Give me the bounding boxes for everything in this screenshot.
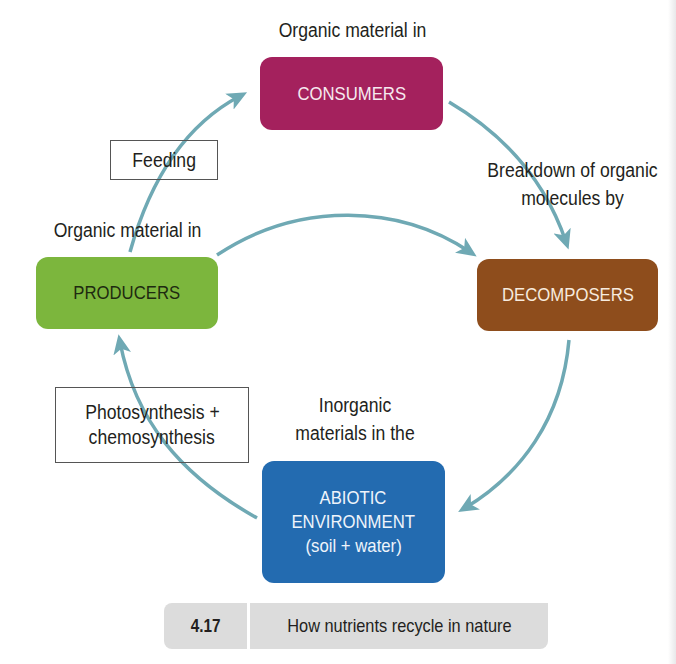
arrow-decomposers-to-abiotic (465, 340, 569, 508)
abiotic-caption-line2: materials in the (285, 421, 426, 446)
process-feeding: Feeding (110, 140, 218, 180)
node-abiotic-line1: ABIOTIC (320, 486, 387, 510)
figure-caption-text: How nutrients recycle in nature (250, 603, 548, 649)
producers-caption: Organic material in (33, 218, 222, 243)
figure-caption: 4.17 How nutrients recycle in nature (164, 603, 548, 649)
node-decomposers-label: DECOMPOSERS (502, 283, 634, 307)
abiotic-caption-line1: Inorganic (289, 393, 421, 418)
node-decomposers: DECOMPOSERS (477, 259, 658, 331)
decomposers-caption-line1: Breakdown of organic (469, 158, 676, 183)
arrow-producers-to-decomposers (217, 215, 470, 255)
node-abiotic-environment: ABIOTIC ENVIRONMENT (soil + water) (262, 461, 445, 583)
process-photosynthesis-line2: chemosynthesis (89, 425, 215, 450)
process-photosynthesis-line1: Photosynthesis + (85, 400, 220, 425)
process-feeding-label: Feeding (132, 148, 196, 173)
consumers-caption: Organic material in (254, 18, 452, 43)
figure-number: 4.17 (164, 603, 247, 649)
figure-caption-label: How nutrients recycle in nature (287, 615, 511, 637)
node-consumers: CONSUMERS (260, 57, 443, 130)
figure-number-text: 4.17 (191, 616, 221, 637)
decomposers-caption-line2: molecules by (491, 186, 654, 211)
node-abiotic-line2: ENVIRONMENT (292, 510, 416, 534)
node-consumers-label: CONSUMERS (297, 82, 406, 106)
process-photosynthesis: Photosynthesis + chemosynthesis (55, 387, 249, 463)
node-producers-label: PRODUCERS (74, 281, 181, 305)
node-abiotic-line3: (soil + water) (305, 534, 401, 558)
node-producers: PRODUCERS (36, 257, 218, 329)
